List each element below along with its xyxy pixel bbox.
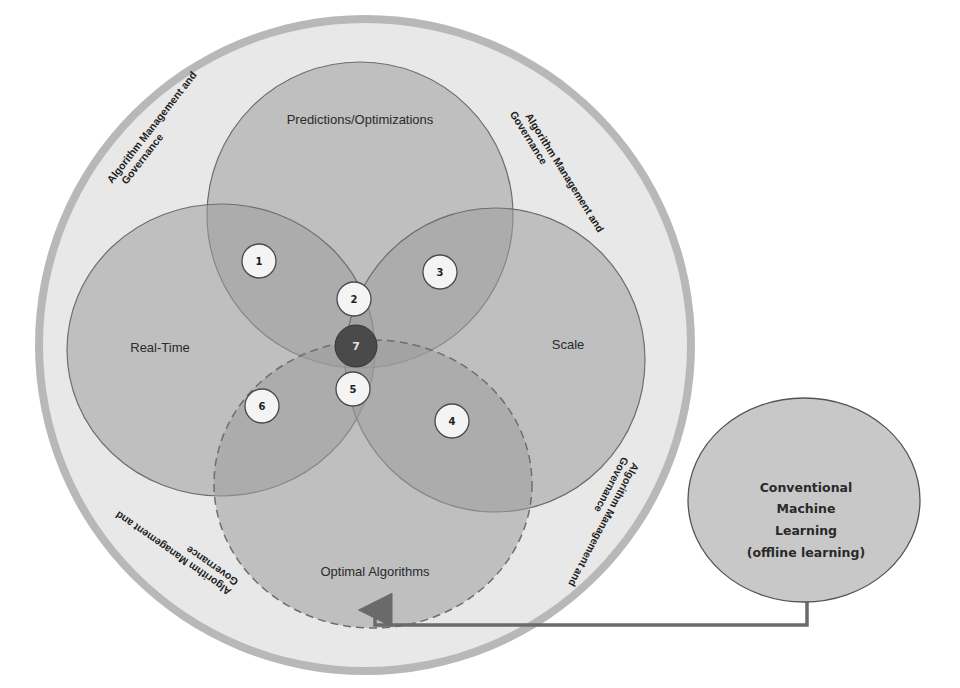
badge-5-label: 5	[350, 384, 357, 395]
badge-3-label: 3	[437, 267, 444, 278]
conventional-ml-line4: (offline learning)	[747, 545, 865, 560]
conventional-ml-line3: Learning	[775, 523, 837, 538]
conventional-ml-line1: Conventional	[760, 480, 853, 495]
label-optimal-algorithms: Optimal Algorithms	[320, 564, 430, 579]
conventional-ml-node	[688, 398, 920, 602]
set-optimal-algorithms	[214, 340, 532, 628]
label-scale: Scale	[552, 337, 585, 352]
badge-6-label: 6	[259, 401, 266, 412]
badge-4-label: 4	[449, 416, 456, 427]
badge-7-label: 7	[352, 340, 360, 353]
conventional-ml-line2: Machine	[777, 501, 836, 516]
venn-diagram: Predictions/Optimizations Real-Time Scal…	[0, 0, 960, 688]
badge-2-label: 2	[351, 294, 358, 305]
label-predictions-optimizations: Predictions/Optimizations	[287, 112, 434, 127]
label-real-time: Real-Time	[130, 340, 189, 355]
badge-1-label: 1	[256, 256, 263, 267]
